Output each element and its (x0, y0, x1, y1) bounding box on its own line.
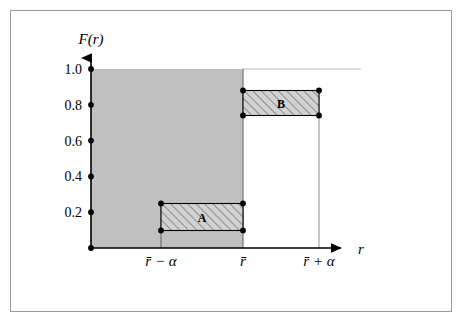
y-tick-mark (88, 174, 94, 180)
y-tick-mark (88, 209, 94, 215)
figure-border-frame: A B 1.0 (10, 10, 452, 312)
point-marker (240, 228, 246, 234)
y-axis-title: F(r) (78, 31, 104, 48)
y-tick-mark (88, 138, 94, 144)
y-tick-label-0_4: 0.4 (65, 169, 83, 184)
point-marker (158, 228, 164, 234)
x-tick-label-rbar-plus-alpha: r̄ + α (303, 253, 335, 269)
cdf-plot: A B 1.0 (11, 11, 451, 311)
y-tick-mark (88, 102, 94, 108)
x-axis-title: r (358, 241, 364, 257)
y-tick-mark (88, 245, 94, 251)
y-tick-label-1_0: 1.0 (65, 62, 83, 77)
point-marker (158, 201, 164, 207)
point-marker (316, 113, 322, 119)
y-tick-mark (88, 66, 94, 72)
point-marker (240, 201, 246, 207)
y-tick-label-0_8: 0.8 (65, 98, 83, 113)
region-b-label: B (277, 97, 285, 111)
x-tick-label-rbar-minus-alpha: r̄ − α (145, 253, 177, 269)
y-tick-label-0_2: 0.2 (65, 205, 83, 220)
point-marker (316, 88, 322, 94)
point-marker (240, 88, 246, 94)
region-a-label: A (198, 211, 207, 225)
figure-root: A B 1.0 (0, 0, 464, 322)
x-tick-label-rbar: r̄ (240, 253, 246, 269)
y-tick-label-0_6: 0.6 (65, 134, 83, 149)
point-marker (240, 113, 246, 119)
